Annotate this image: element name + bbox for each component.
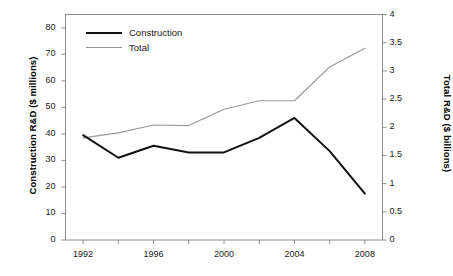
legend-label-construction: Construction (129, 27, 182, 38)
series-line-total (83, 48, 365, 138)
legend-line-total-icon (86, 43, 122, 53)
legend-line-construction-icon (86, 28, 122, 38)
legend-item-construction: Construction (86, 25, 236, 40)
legend-item-total: Total (86, 40, 236, 55)
legend-label-total: Total (129, 42, 149, 53)
chart-legend: Construction Total (86, 25, 236, 55)
series-line-construction (83, 118, 365, 194)
